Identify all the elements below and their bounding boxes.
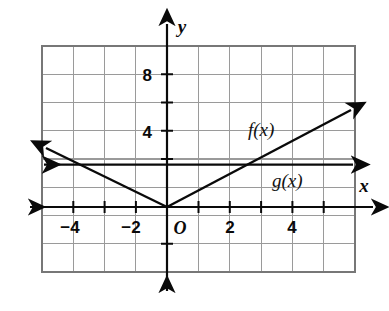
- y-tick-label-4: 4: [143, 123, 153, 142]
- origin-label: O: [174, 218, 187, 238]
- grid-lines: [42, 46, 355, 272]
- curve-f-of-x-left-ray: [46, 148, 167, 207]
- x-tick-label-minus-2: −2: [121, 218, 140, 237]
- y-axis-label: y: [176, 16, 187, 37]
- curve-label-g-of-x: g(x): [272, 170, 303, 192]
- x-tick-label-2: 2: [225, 218, 234, 237]
- x-tick-label-4: 4: [287, 218, 297, 237]
- axes: [30, 24, 373, 291]
- coordinate-plane-svg: y x 8 4 −4 −2 O 2 4 f(x) g(x): [0, 0, 389, 311]
- curve-label-f-of-x: f(x): [248, 119, 274, 141]
- x-tick-label-minus-4: −4: [60, 218, 80, 237]
- y-tick-label-8: 8: [143, 66, 152, 85]
- graph-figure: y x 8 4 −4 −2 O 2 4 f(x) g(x): [0, 0, 389, 311]
- x-axis-label: x: [358, 175, 369, 196]
